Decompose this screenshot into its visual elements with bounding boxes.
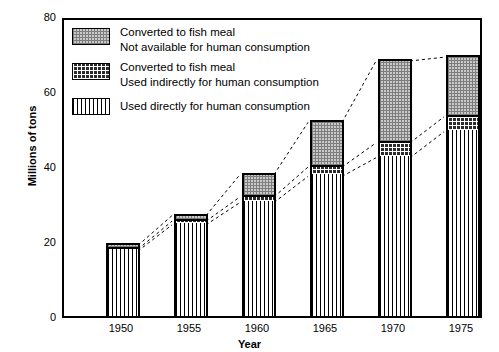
legend-item-not-available-line1: Converted to fish meal — [120, 25, 310, 40]
bar-1955[interactable] — [174, 214, 208, 316]
y-tick-label-80: 80 — [30, 12, 56, 23]
bar-1950[interactable] — [106, 243, 140, 316]
bar-1965[interactable] — [310, 120, 344, 316]
bar-1950-seg-direct — [106, 249, 140, 316]
bar-1960-seg-meal — [242, 173, 276, 195]
legend-item-indirect-line1: Converted to fish meal — [120, 60, 319, 75]
bar-1970-seg-meal — [378, 59, 412, 141]
bar-1975[interactable] — [446, 55, 480, 316]
x-tick-label-1970: 1970 — [363, 322, 423, 334]
x-tick-label-1960: 1960 — [227, 322, 287, 334]
bar-1975-seg-indirect — [446, 115, 480, 130]
bar-1950-seg-indirect — [106, 247, 140, 249]
y-tick-label-0: 0 — [30, 312, 56, 323]
bar-1970-seg-direct — [378, 156, 412, 316]
crosshatch-swatch-icon — [72, 63, 110, 80]
bar-1955-seg-indirect — [174, 219, 208, 223]
stipple-swatch-icon — [72, 28, 110, 45]
legend-item-not-available: Converted to fish meal Not available for… — [72, 26, 372, 56]
vertical-swatch-icon — [72, 98, 110, 115]
fish-utilization-chart: 80 60 40 20 0 Millions of tons — [0, 0, 499, 352]
bar-1975-seg-direct — [446, 130, 480, 316]
bar-1970[interactable] — [378, 59, 412, 316]
bar-1960-seg-indirect — [242, 195, 276, 201]
bar-1970-seg-indirect — [378, 141, 412, 156]
legend-item-direct: Used directly for human consumption — [72, 96, 372, 116]
x-tick-label-1955: 1955 — [159, 322, 219, 334]
x-axis-title: Year — [0, 338, 499, 350]
bar-1955-seg-meal — [174, 214, 208, 220]
legend: Converted to fish meal Not available for… — [72, 26, 372, 121]
bar-1975-seg-meal — [446, 55, 480, 115]
bar-1950-seg-meal — [106, 243, 140, 247]
y-tick-label-20: 20 — [30, 237, 56, 248]
bar-1960[interactable] — [242, 173, 276, 316]
legend-item-direct-line1: Used directly for human consumption — [120, 99, 310, 114]
y-axis-title: Millions of tons — [26, 86, 38, 206]
legend-item-not-available-line2: Not available for human consumption — [120, 40, 310, 55]
legend-item-indirect-line2: Used indirectly for human consumption — [120, 75, 319, 90]
bar-1965-seg-meal — [310, 120, 344, 165]
x-tick-label-1950: 1950 — [91, 322, 151, 334]
x-tick-label-1965: 1965 — [295, 322, 355, 334]
x-tick-label-1975: 1975 — [431, 322, 491, 334]
bar-1960-seg-direct — [242, 201, 276, 317]
bar-1955-seg-direct — [174, 223, 208, 316]
plot-area: Converted to fish meal Not available for… — [62, 18, 482, 318]
legend-item-indirect: Converted to fish meal Used indirectly f… — [72, 61, 372, 91]
bar-1965-seg-indirect — [310, 165, 344, 174]
bar-1965-seg-direct — [310, 174, 344, 316]
